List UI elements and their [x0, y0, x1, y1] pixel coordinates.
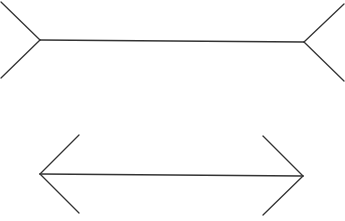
bottom-shaft-line [40, 174, 303, 176]
bottom-left-lower-fin [40, 174, 79, 213]
diagram-svg [0, 0, 345, 221]
bottom-right-lower-fin [263, 176, 303, 215]
top-left-lower-fin [1, 40, 40, 78]
top-left-upper-fin [1, 2, 40, 40]
muller-lyer-diagram [0, 0, 345, 221]
bottom-right-upper-fin [263, 136, 303, 176]
bottom-left-upper-fin [40, 135, 79, 174]
top-right-lower-fin [304, 42, 344, 81]
top-right-upper-fin [304, 4, 344, 42]
bottom-line-fins-inward [40, 135, 303, 215]
top-shaft-line [40, 40, 304, 42]
top-line-fins-outward [1, 2, 344, 81]
